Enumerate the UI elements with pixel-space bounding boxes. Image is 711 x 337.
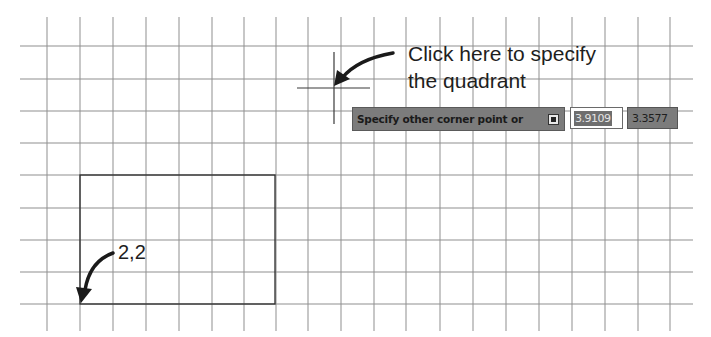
x-coordinate-value: 3.9109 <box>574 111 612 126</box>
command-prompt-tooltip: Specify other corner point or <box>352 107 565 131</box>
grid <box>0 0 711 337</box>
command-prompt-text: Specify other corner point or <box>357 113 548 125</box>
instruction-line-1: Click here to specify <box>408 40 596 67</box>
arrow-to-crosshair-icon <box>334 53 393 86</box>
start-point-label: 2,2 <box>118 241 146 264</box>
x-coordinate-input[interactable]: 3.9109 <box>570 107 623 129</box>
y-coordinate-input[interactable]: 3.3577 <box>627 107 678 129</box>
instruction-annotation: Click here to specify the quadrant <box>408 40 596 94</box>
down-arrow-options-icon[interactable] <box>548 114 559 125</box>
instruction-line-2: the quadrant <box>408 67 596 94</box>
drawing-canvas[interactable]: Click here to specify the quadrant 2,2 S… <box>0 0 711 337</box>
y-coordinate-value: 3.3577 <box>632 112 668 125</box>
arrow-to-start-point-icon <box>76 253 113 303</box>
